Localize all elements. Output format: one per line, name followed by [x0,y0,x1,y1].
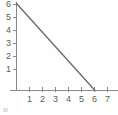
x-tick-label-4: 4 [64,95,74,104]
data-line-series-1 [17,4,96,91]
x-tick-label-6: 6 [90,95,100,104]
x-tick-label-2: 2 [38,95,48,104]
y-tick-label-3: 3 [1,39,11,48]
x-tick-label-1: 1 [25,95,35,104]
scan-artifact [3,108,8,112]
y-tick-label-5: 5 [1,13,11,22]
y-tick-label-2: 2 [1,52,11,61]
y-tick-label-1: 1 [1,65,11,74]
y-tick-label-6: 6 [1,0,11,9]
line-chart: 6 5 4 3 2 1 1 2 3 4 5 6 7 [0,0,118,115]
x-tick-label-5: 5 [77,95,87,104]
x-tick-label-7: 7 [103,95,113,104]
x-tick-marks [30,87,108,92]
x-tick-label-3: 3 [51,95,61,104]
y-tick-label-4: 4 [1,26,11,35]
